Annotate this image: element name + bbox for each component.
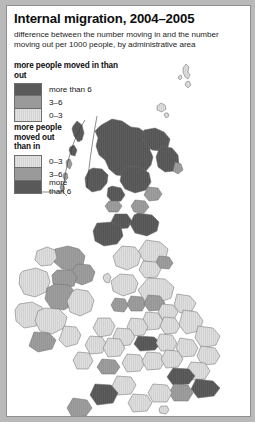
legend-swatch-mid-icon <box>14 96 42 109</box>
legend-label: 0–3 <box>49 157 62 166</box>
region-norfolk <box>195 326 220 348</box>
region-pembrokeshire <box>73 352 93 369</box>
migration-figure: Internal migration, 2004–2005 difference… <box>7 6 250 416</box>
region-kent <box>191 379 220 398</box>
region-edinburgh <box>131 200 149 213</box>
figure-frame: Internal migration, 2004–2005 difference… <box>6 5 251 417</box>
legend-rows-moved-out: 0–3 3–6 more than 6 <box>14 155 72 194</box>
legend-label: 3–6 <box>49 98 62 107</box>
legend-label: more than 6 <box>49 178 71 196</box>
legend-heading-moved-in: more people moved in than out <box>14 61 129 80</box>
region-isle-of-wight <box>159 406 169 414</box>
region-cardiff <box>97 359 120 374</box>
legend-block-moved-in: more people moved in than out more than … <box>14 61 129 122</box>
legend-block-moved-out: more people moved out than in 0–3 3–6 mo… <box>14 123 72 194</box>
region-connacht <box>19 268 50 297</box>
region-gloucestershire <box>122 354 145 372</box>
region-oxfordshire <box>142 352 165 370</box>
region-lancashire <box>111 274 138 296</box>
region-merseyside <box>111 298 128 312</box>
legend-swatch-dark-icon <box>14 83 42 96</box>
region-stirling <box>107 186 125 202</box>
legend-swatch-dark-icon <box>14 181 42 194</box>
region-aberdeen-city <box>173 162 183 174</box>
legend-item-in-3-6[interactable]: 3–6 <box>14 96 129 109</box>
region-cumbria <box>113 246 141 270</box>
region-nottinghamshire <box>160 317 180 334</box>
legend-label: more than 6 <box>49 85 92 94</box>
region-dorset <box>128 394 152 412</box>
region-donegal <box>35 247 57 266</box>
region-gwynedd <box>93 318 115 337</box>
legend-item-out-more-than-6[interactable]: more than 6 <box>14 181 72 194</box>
region-orkney <box>157 103 169 118</box>
legend-swatch-light-icon <box>14 155 42 168</box>
page-title: Internal migration, 2004–2005 <box>14 11 194 26</box>
legend-swatch-mid-icon <box>14 168 42 181</box>
region-surrey <box>169 384 193 401</box>
region-munster-south <box>29 332 56 352</box>
region-shetland <box>178 64 191 88</box>
region-hampshire <box>148 384 172 402</box>
legend-item-out-0-3[interactable]: 0–3 <box>14 155 72 168</box>
region-isle-of-man <box>103 273 111 283</box>
legend-item-in-more-than-6[interactable]: more than 6 <box>14 83 129 96</box>
legend-rows-moved-in: more than 6 3–6 0–3 <box>14 83 129 122</box>
region-ceredigion <box>85 336 107 354</box>
legend-swatch-light-icon <box>14 109 42 122</box>
region-leicestershire <box>156 334 177 351</box>
legend-label: 0–3 <box>49 111 62 120</box>
region-munster-east <box>35 308 67 334</box>
region-scottish-borders <box>130 213 159 236</box>
region-cornwall <box>67 398 92 417</box>
region-dumfries-and-galloway <box>93 222 123 246</box>
legend-item-in-0-3[interactable]: 0–3 <box>14 109 129 122</box>
legend-heading-moved-out: more people moved out than in <box>14 123 72 152</box>
region-fife <box>144 187 162 201</box>
region-highland <box>95 119 153 176</box>
region-suffolk <box>197 346 220 365</box>
page-background: Internal migration, 2004–2005 difference… <box>0 0 255 422</box>
region-south-leinster <box>59 326 81 347</box>
region-glasgow-city <box>105 201 122 212</box>
